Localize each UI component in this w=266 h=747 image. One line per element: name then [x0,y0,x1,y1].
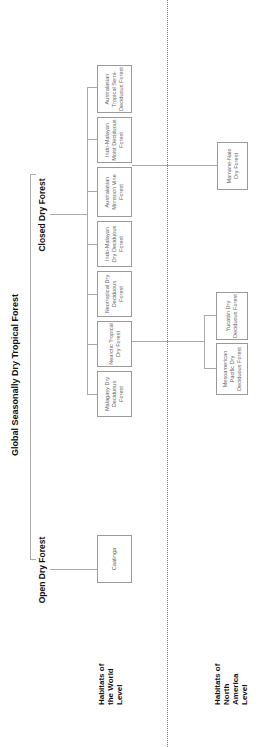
hierarchy-diagram: Global Seasonally Dry Tropical Forest Op… [0,0,266,747]
habitat-label: Australasian Tropical Semi-Deciduous For… [104,67,125,111]
branch-closed-dry-forest: Closed Dry Forest [37,165,47,265]
nearctic-down-connector [132,341,204,342]
habitat-label: Caatinga [111,548,118,570]
habitat-label: Indo-Malayan Moist Deciduous Forest [104,119,125,161]
tick [87,344,97,345]
root-bracket-line [30,175,31,560]
branch-open-dry-forest: Open Dry Forest [37,520,47,620]
root-bracket-right [30,174,36,175]
indomalayan-down-connector [132,165,217,166]
tick [87,139,97,140]
habitat-label: Mesoamerican Pacific Dry Deciduous Fores… [222,345,243,393]
habitat-box-australasian-semi: Australasian Tropical Semi-Deciduous For… [97,65,132,113]
closed-connector [50,214,87,215]
habitat-box-nearctic: Nearctic Tropical Dry Forest [97,321,132,367]
habitat-box-caatinga: Caatinga [97,535,132,583]
habitat-box-australasian-monsoon: Australasian Monsoon Vine Forest [97,167,132,217]
level-label-world: Habitats of the World Level [97,663,124,705]
root-bracket-left [30,559,36,560]
habitat-label: Malagasy Dry Deciduous Forest [104,373,125,415]
tick [204,315,216,316]
tick [87,294,97,295]
habitat-label: Indo-Malayan Dry Deciduous Forest [104,223,125,265]
habitat-box-yucatan: Yucatán Dry Deciduous Forest [216,292,248,340]
level-label-north-america: Habitats of North America Level [213,663,249,705]
diagram-title: Global Seasonally Dry Tropical Forest [10,275,20,475]
tick [204,368,216,369]
habitat-box-indomalayan-dry: Indo-Malayan Dry Deciduous Forest [97,221,132,267]
habitat-label: Neotropical Dry Deciduous Forest [104,273,125,315]
habitat-box-neotropical: Neotropical Dry Deciduous Forest [97,271,132,317]
habitat-label: Australasian Monsoon Vine Forest [104,169,125,215]
tick [87,87,97,88]
habitat-label: Nearctic Tropical Dry Forest [108,323,122,365]
world-bracket-line [87,88,88,395]
tick [87,191,97,192]
open-connector [50,569,97,570]
tick [87,394,97,395]
na-bracket-line [204,315,205,369]
level-divider [167,0,168,747]
habitat-box-mamane-naio: Mamane-Naio Dry Forest [217,142,248,190]
habitat-label: Yucatán Dry Deciduous Forest [225,294,239,338]
habitat-box-malagasy: Malagasy Dry Deciduous Forest [97,371,132,417]
habitat-label: Mamane-Naio Dry Forest [226,144,240,188]
tick [87,244,97,245]
habitat-box-indomalayan-moist: Indo-Malayan Moist Deciduous Forest [97,117,132,163]
habitat-box-mesoamerican: Mesoamerican Pacific Dry Deciduous Fores… [216,343,248,395]
